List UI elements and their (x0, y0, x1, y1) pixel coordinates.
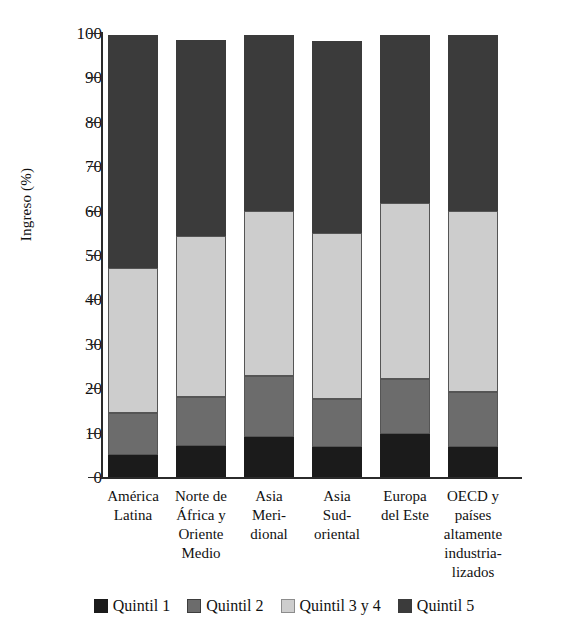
x-axis-category-label-line: América (96, 487, 170, 506)
x-axis-category-label-line: industria- (436, 544, 510, 563)
x-axis-category-label: AméricaLatina (96, 487, 170, 525)
x-axis-category-label-line: Latina (96, 506, 170, 525)
legend-label: Quintil 3 y 4 (300, 598, 381, 614)
x-axis-category-label: OECD ypaísesaltamenteindustria-lizados (436, 487, 510, 582)
bar-segment (380, 434, 430, 477)
bar-segment (380, 379, 430, 434)
bar-segment (176, 236, 226, 397)
bar-segment (448, 447, 498, 477)
bar-segment (176, 397, 226, 446)
bar-segment (312, 399, 362, 447)
bar-segment (448, 392, 498, 447)
bar-segment (312, 233, 362, 400)
bar-column (108, 0, 158, 628)
bar-segment (108, 268, 158, 412)
bar-segment (176, 40, 226, 237)
legend-item[interactable]: Quintil 2 (187, 598, 263, 614)
bar-segment (108, 413, 158, 455)
stacked-bar-chart: Ingreso (%) 0102030405060708090100 Améri… (0, 0, 568, 628)
x-axis-category-label: Norte deÁfrica yOrienteMedio (164, 487, 238, 563)
legend-swatch-icon (187, 599, 201, 613)
bar-segment (244, 376, 294, 437)
bar-column (380, 0, 430, 628)
bar-segment (312, 447, 362, 477)
bar-segment (380, 35, 430, 202)
bar-segment (244, 211, 294, 377)
legend-label: Quintil 5 (417, 598, 474, 614)
x-axis-category-label-line: altamente (436, 525, 510, 544)
legend-item[interactable]: Quintil 3 y 4 (281, 598, 381, 614)
bar-segment (380, 203, 430, 380)
x-axis-category-label-line: dional (232, 525, 306, 544)
x-axis-category-label-line: del Este (368, 506, 442, 525)
x-axis-category-label-line: lizados (436, 563, 510, 582)
x-axis-category-label-line: oriental (300, 525, 374, 544)
legend-item[interactable]: Quintil 5 (398, 598, 474, 614)
x-axis-category-label-line: Medio (164, 544, 238, 563)
x-axis-category-label-line: Oriente (164, 525, 238, 544)
legend-label: Quintil 1 (113, 598, 170, 614)
x-axis-category-label-line: África y (164, 506, 238, 525)
bar-segment (448, 211, 498, 393)
x-axis-category-label: AsiaMeri-dional (232, 487, 306, 544)
legend-label: Quintil 2 (206, 598, 263, 614)
bar-segment (108, 455, 158, 477)
x-axis-category-label-line: Europa (368, 487, 442, 506)
x-axis-category-label-line: Asia (300, 487, 374, 506)
chart-legend: Quintil 1Quintil 2Quintil 3 y 4Quintil 5 (0, 598, 568, 614)
x-axis-category-label-line: Meri- (232, 506, 306, 525)
bar-segment (448, 35, 498, 210)
x-axis-category-label-line: Asia (232, 487, 306, 506)
bar-segment (244, 437, 294, 477)
bar-segment (176, 446, 226, 477)
x-axis-category-label: Europadel Este (368, 487, 442, 525)
legend-item[interactable]: Quintil 1 (94, 598, 170, 614)
bar-segment (312, 41, 362, 233)
x-axis-category-label-line: países (436, 506, 510, 525)
bar-segment (108, 35, 158, 268)
legend-swatch-icon (281, 599, 295, 613)
legend-swatch-icon (94, 599, 108, 613)
x-axis-category-label: AsiaSud-oriental (300, 487, 374, 544)
x-axis-category-label-line: Norte de (164, 487, 238, 506)
legend-swatch-icon (398, 599, 412, 613)
x-axis-category-label-line: OECD y (436, 487, 510, 506)
bar-segment (244, 35, 294, 210)
x-axis-category-label-line: Sud- (300, 506, 374, 525)
